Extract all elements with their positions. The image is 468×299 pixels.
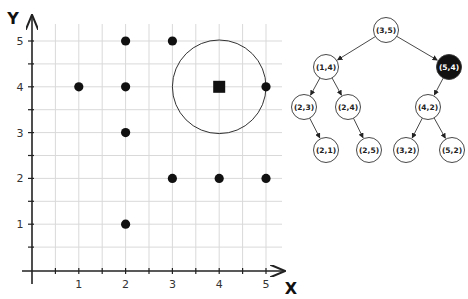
y-tick-label: 5 [17, 35, 24, 48]
tree-node-32: (3,2) [394, 138, 419, 163]
tree-node-54: (5,4) [437, 55, 462, 80]
y-tick-label: 2 [17, 172, 24, 185]
tree-node-21: (2,1) [314, 138, 339, 163]
tree-edge-arrow [337, 37, 375, 60]
kd-tree-diagram: (3,5)(1,4)(5,4)(2,3)(2,4)(4,2)(2,1)(2,5)… [292, 18, 465, 163]
data-point [215, 174, 224, 183]
y-tick-label: 4 [17, 81, 24, 94]
data-point [74, 82, 83, 91]
kd-tree-figure: 1234512345XY (3,5)(1,4)(5,4)(2,3)(2,4)(4… [0, 0, 468, 299]
x-tick-label: 4 [216, 278, 223, 291]
y-axis-title: Y [6, 9, 19, 28]
x-tick-label: 3 [169, 278, 176, 291]
tree-node-label: (2,5) [359, 146, 379, 155]
tree-edge-arrow [397, 36, 438, 60]
y-tick-label: 3 [17, 127, 24, 140]
data-point [121, 36, 130, 45]
tree-node-label: (4,2) [418, 103, 438, 112]
tree-node-23: (2,3) [292, 95, 317, 120]
tree-node-label: (3,5) [376, 26, 396, 35]
tree-edge-arrow [311, 78, 320, 95]
tree-node-52: (5,2) [440, 138, 465, 163]
data-point [261, 82, 270, 91]
tree-edge-arrow [434, 118, 445, 138]
tree-node-35: (3,5) [374, 18, 399, 43]
tree-node-24: (2,4) [336, 95, 361, 120]
tree-node-42: (4,2) [416, 95, 441, 120]
x-axis-title: X [285, 279, 298, 298]
tree-edge-arrow [310, 118, 320, 138]
data-point [168, 36, 177, 45]
tree-node-25: (2,5) [357, 138, 382, 163]
data-point [168, 174, 177, 183]
x-tick-label: 1 [75, 278, 82, 291]
tree-edge-arrow [412, 118, 422, 138]
tree-node-label: (3,2) [396, 146, 416, 155]
query-point-square [213, 81, 225, 93]
tree-edge-arrow [434, 78, 443, 95]
grid [32, 24, 282, 270]
tree-edge-arrow [332, 78, 341, 95]
x-tick-label: 2 [122, 278, 129, 291]
data-point [261, 174, 270, 183]
scatter-plot: 1234512345XY [6, 9, 298, 298]
tree-node-label: (2,3) [294, 103, 314, 112]
data-point [121, 220, 130, 229]
tree-node-label: (2,1) [316, 146, 336, 155]
tree-node-label: (5,4) [439, 63, 459, 72]
data-point [121, 82, 130, 91]
tree-node-label: (2,4) [338, 103, 358, 112]
tree-node-label: (5,2) [442, 146, 462, 155]
data-point [121, 128, 130, 137]
y-tick-label: 1 [17, 218, 24, 231]
tree-edge-arrow [353, 118, 363, 138]
tree-node-label: (1,4) [316, 63, 336, 72]
x-tick-label: 5 [263, 278, 270, 291]
tree-node-14: (1,4) [314, 55, 339, 80]
